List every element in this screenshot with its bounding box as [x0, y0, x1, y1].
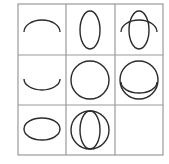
grid-border — [18, 4, 163, 155]
circle-shape — [71, 111, 109, 149]
upper-arc-shape — [121, 20, 157, 32]
cell-r1c2 — [80, 11, 100, 49]
grid — [18, 4, 163, 155]
circle-shape — [71, 61, 109, 99]
vertical-ellipse-shape — [80, 11, 100, 49]
cell-r2c1 — [24, 79, 60, 90]
cell-r1c1 — [24, 20, 60, 32]
cell-r1c3 — [121, 11, 157, 49]
cell-r3c2 — [71, 111, 109, 149]
vertical-ellipse-shape — [129, 11, 149, 49]
lower-arc-shape — [24, 79, 60, 90]
figure-matrix-puzzle — [0, 0, 169, 164]
upper-arc-shape — [24, 20, 60, 32]
horizontal-ellipse-shape — [24, 118, 60, 140]
cell-r3c1 — [24, 118, 60, 140]
vertical-ellipse-shape — [80, 111, 100, 149]
cell-r2c2 — [71, 61, 109, 99]
cell-r2c3 — [120, 61, 158, 99]
lower-arc-shape — [121, 82, 157, 93]
